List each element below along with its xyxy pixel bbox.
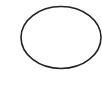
ellipse-shape	[21, 7, 101, 69]
canvas	[0, 0, 102, 86]
